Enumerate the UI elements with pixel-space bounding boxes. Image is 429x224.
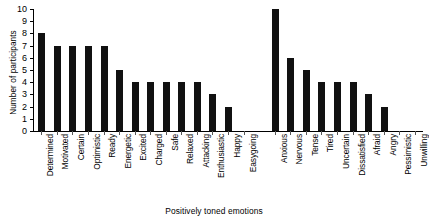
x-label-slot: Optimistic: [81, 134, 97, 204]
x-label-slot: Easygoing: [237, 134, 253, 204]
bar-slot: [81, 9, 97, 131]
x-label-slot: Pessimistic: [393, 134, 409, 204]
x-label-slot: Happy: [221, 134, 237, 204]
x-label-slot: Afraid: [361, 134, 377, 204]
bar: [365, 94, 372, 131]
bar-slot: [361, 9, 377, 131]
bar: [350, 82, 357, 131]
y-tick-label: 7: [22, 41, 27, 50]
y-tick-label: 1: [22, 114, 27, 123]
bar-slot: [159, 9, 175, 131]
x-label-slot: Nervous: [284, 134, 300, 204]
x-label-slot: Dissatisfied: [346, 134, 362, 204]
bar-slot: [50, 9, 66, 131]
bar: [147, 82, 154, 131]
y-tick-label: 4: [22, 78, 27, 87]
bar-slot: [408, 9, 424, 131]
x-label-slot: Certain: [65, 134, 81, 204]
x-label-slot: Tense: [299, 134, 315, 204]
bar: [318, 82, 325, 131]
bar-slot: [190, 9, 206, 131]
bar-slot: [252, 9, 268, 131]
plot-area: 012345678910: [33, 9, 423, 131]
bar-slot: [345, 9, 361, 131]
x-label-slot: [252, 134, 268, 204]
x-label-slot: Determined: [34, 134, 50, 204]
x-axis-category-labels: DeterminedMotivatedCertainOptimisticRead…: [34, 134, 424, 204]
bar: [54, 46, 61, 131]
bar-slot: [330, 9, 346, 131]
bar-slot: [392, 9, 408, 131]
cropped-caption-strip: [46, 0, 306, 6]
bar-slot: [221, 9, 237, 131]
x-label-slot: Relaxed: [174, 134, 190, 204]
bar-slot: [314, 9, 330, 131]
y-tick-label: 8: [22, 29, 27, 38]
bar: [334, 82, 341, 131]
x-label-slot: Ready: [96, 134, 112, 204]
bar-slot: [127, 9, 143, 131]
bar-slot: [143, 9, 159, 131]
bar: [85, 46, 92, 131]
x-label-slot: Safe: [159, 134, 175, 204]
bar: [101, 46, 108, 131]
y-tick-label: 3: [22, 90, 27, 99]
bar: [225, 107, 232, 131]
x-label-slot: Unwilling: [408, 134, 424, 204]
bar-slot: [65, 9, 81, 131]
x-label-slot: Motivated: [50, 134, 66, 204]
bar: [209, 94, 216, 131]
x-label-slot: Charged: [143, 134, 159, 204]
bar: [272, 9, 279, 131]
bar: [116, 70, 123, 131]
y-tick-label: 10: [17, 5, 27, 14]
bar: [38, 33, 45, 131]
x-label-slot: Anxious: [268, 134, 284, 204]
x-label-slot: Uncertain: [330, 134, 346, 204]
bar-slot: [376, 9, 392, 131]
bar-slot: [96, 9, 112, 131]
bar-slot: [299, 9, 315, 131]
bar-slot: [283, 9, 299, 131]
bar-slot: [267, 9, 283, 131]
x-label-slot: Tired: [315, 134, 331, 204]
bar-slot: [174, 9, 190, 131]
y-axis-title: Number of participants: [9, 19, 18, 127]
bar: [303, 70, 310, 131]
x-label-slot: Enthusiastic: [206, 134, 222, 204]
bar: [132, 82, 139, 131]
bar-slot: [236, 9, 252, 131]
y-tick-label: 6: [22, 53, 27, 62]
y-tick-label: 5: [22, 66, 27, 75]
y-tick-label: 2: [22, 102, 27, 111]
bar: [178, 82, 185, 131]
x-axis-title: Positively toned emotions: [0, 206, 428, 216]
x-label-slot: Energetic: [112, 134, 128, 204]
y-tick-label: 9: [22, 17, 27, 26]
x-label-slot: Attacking: [190, 134, 206, 204]
y-tick-mark: [30, 131, 34, 132]
bar-slot: [34, 9, 50, 131]
bar-series: [34, 9, 423, 131]
bar: [69, 46, 76, 131]
y-tick-label: 0: [22, 127, 27, 136]
x-label-slot: Angry: [377, 134, 393, 204]
bar-slot: [205, 9, 221, 131]
bar: [194, 82, 201, 131]
x-tick-label: Unwilling: [420, 134, 428, 167]
bar: [287, 58, 294, 131]
x-label-slot: Excited: [128, 134, 144, 204]
bar: [163, 82, 170, 131]
bar-slot: [112, 9, 128, 131]
bar: [381, 107, 388, 131]
